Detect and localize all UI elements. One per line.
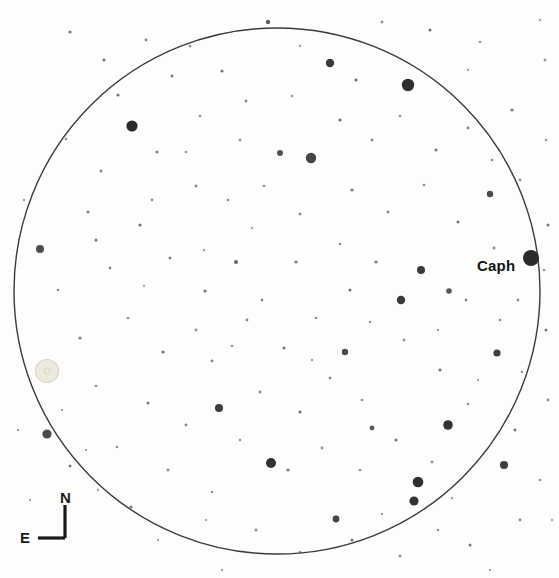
star-dot [339,243,342,246]
star-dot [203,249,205,251]
star-dot [500,461,508,469]
star-dot [551,519,553,521]
star-dot [545,329,548,332]
star-dot [467,403,470,406]
star-dot [493,247,496,250]
star-dot [413,477,424,488]
star-dot [97,489,99,491]
star-dot [277,150,283,156]
star-dot [477,379,479,381]
star-dot [251,227,253,229]
star-dot [429,29,432,32]
star-dot [295,261,298,264]
star-dot [409,496,418,505]
star-dot [227,199,230,202]
star-dot [246,319,249,322]
star-dot [287,469,290,472]
star-dot [69,465,72,468]
star-dot [42,429,51,438]
star-dot [479,41,482,44]
star-dot [221,569,223,571]
star-dot [451,497,453,499]
star-dot [185,151,188,154]
star-dot [351,189,354,192]
star-dot [519,519,522,522]
star-dot [457,221,460,224]
star-dot [29,499,31,501]
star-dot [375,261,378,264]
star-dot [349,289,352,292]
named-star-caph [523,250,539,266]
star-dot [311,359,313,361]
star-dot [126,120,137,131]
star-dot [491,159,494,162]
star-dot [547,224,550,227]
star-dot [79,337,82,340]
star-dot [156,151,159,154]
star-dot [259,391,262,394]
star-dot [381,21,384,24]
star-dot [342,349,348,355]
star-dot [467,69,469,71]
star-dot [511,109,514,112]
star-dot [338,118,341,121]
star-dot [239,139,242,142]
star-dot [263,185,266,188]
star-dot [195,185,198,188]
target-halo [36,360,59,383]
star-dot [255,529,258,532]
star-dot [439,369,442,372]
star-dot [387,211,390,214]
named-stars-layer [523,250,539,266]
sky-plot-svg [0,0,559,578]
star-dot [147,402,150,405]
star-dot [203,289,206,292]
star-dot [261,299,264,302]
star-dot [68,30,71,33]
star-dot [130,506,133,509]
star-dot [266,458,276,468]
star-dot [539,19,541,21]
star-dot [547,399,550,402]
star-dot [299,213,302,216]
star-dot [195,329,198,332]
star-dot [116,446,119,449]
target-object-marker [36,360,59,383]
star-dot [127,317,130,320]
star-dot [403,339,406,342]
star-dot [231,345,234,348]
star-dot [189,45,192,48]
star-dot [61,409,63,411]
star-dot [469,544,472,547]
star-dot [519,179,522,182]
compass-north-label: N [60,490,71,505]
star-dot [351,539,354,542]
field-of-view-circle [14,28,540,554]
star-dot [417,266,425,274]
star-dot [544,59,547,62]
star-dot [397,296,405,304]
star-dot [157,539,159,541]
star-dot [423,184,426,187]
star-dot [171,75,174,78]
star-dot [211,360,214,363]
star-dot [266,20,270,24]
star-dot [399,115,402,118]
star-dot [493,349,500,356]
star-dot [109,267,112,270]
star-dot [299,411,302,414]
field-of-view-boundary [14,28,540,554]
star-dot [299,45,301,47]
star-dot [443,420,453,430]
star-dot [87,211,90,214]
star-dot [234,260,238,264]
star-dot [431,461,434,464]
compass-rose [38,505,65,538]
star-dot [467,127,470,130]
stars-layer [17,19,553,571]
star-dot [100,170,103,173]
star-dot [85,449,87,451]
star-dot [57,289,60,292]
star-dot [220,69,223,72]
star-dot [333,516,340,523]
